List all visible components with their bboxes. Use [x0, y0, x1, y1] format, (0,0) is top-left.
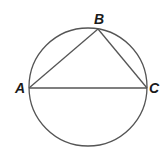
point-label-a: A [14, 80, 25, 96]
diagram-canvas: A B C [0, 0, 165, 155]
circle [29, 28, 147, 146]
point-label-b: B [94, 11, 104, 27]
geometry-diagram: A B C [0, 0, 165, 155]
segment-ab [29, 29, 98, 88]
point-label-c: C [149, 80, 160, 96]
